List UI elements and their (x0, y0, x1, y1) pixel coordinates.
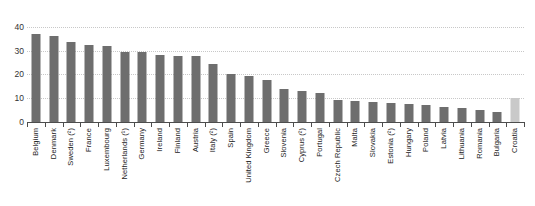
x-label-luxembourg: Luxembourg (103, 128, 111, 171)
x-label-austria: Austria (192, 128, 200, 152)
bar-slot (418, 22, 436, 122)
tickmark (418, 122, 419, 127)
y-tick-label-10: 10 (2, 94, 24, 103)
bar-slovenia[interactable] (280, 89, 289, 122)
tickmark (205, 122, 206, 127)
bar-slot (240, 22, 258, 122)
bar-portugal[interactable] (315, 93, 324, 122)
x-label-finland: Finland (174, 128, 182, 153)
x-label-latvia: Latvia (440, 128, 448, 149)
bar-hungary[interactable] (404, 104, 413, 122)
bar-slot (205, 22, 223, 122)
y-tick-label-20: 20 (2, 70, 24, 79)
tickmark (311, 122, 312, 127)
tickmark (45, 122, 46, 127)
bar-austria[interactable] (191, 56, 200, 122)
tickmark (27, 122, 28, 127)
bar-finland[interactable] (173, 56, 182, 122)
bar-croatia[interactable] (511, 98, 520, 122)
bar-slot (80, 22, 98, 122)
bar-belgium[interactable] (31, 34, 40, 122)
tickmark (329, 122, 330, 127)
bar-germany[interactable] (138, 52, 147, 122)
tickmark (276, 122, 277, 127)
bar-slot (63, 22, 81, 122)
bar-france[interactable] (85, 45, 94, 122)
bar-slot (347, 22, 365, 122)
bar-denmark[interactable] (49, 36, 58, 122)
x-label-spain: Spain (227, 128, 235, 148)
bar-luxembourg[interactable] (102, 46, 111, 122)
x-axis-tickmarks (27, 122, 524, 127)
bar-latvia[interactable] (440, 107, 449, 122)
bar-greece[interactable] (262, 80, 271, 122)
tickmark (453, 122, 454, 127)
x-axis-category-labels: BelgiumDenmarkSweden (²)FranceLuxembourg… (27, 128, 524, 206)
bar-slot (187, 22, 205, 122)
bar-slot (27, 22, 45, 122)
x-label-denmark: Denmark (50, 128, 58, 159)
bar-slot (364, 22, 382, 122)
x-label-sweden: Sweden (²) (67, 128, 75, 166)
x-label-slovenia: Slovenia (280, 128, 288, 158)
bar-slot (329, 22, 347, 122)
bar-italy[interactable] (209, 64, 218, 122)
bar-slot (116, 22, 134, 122)
bar-slot (258, 22, 276, 122)
tickmark (151, 122, 152, 127)
tickmark (524, 122, 525, 127)
x-label-italy: Italy (²) (209, 128, 217, 152)
y-axis-tick-labels: 010203040 (0, 22, 24, 122)
x-label-portugal: Portugal (316, 128, 324, 157)
y-tick-label-30: 30 (2, 47, 24, 56)
tickmark (258, 122, 259, 127)
bar-netherlands[interactable] (120, 52, 129, 122)
bar-slot (453, 22, 471, 122)
x-label-malta: Malta (351, 128, 359, 147)
x-label-lithuania: Lithuania (458, 128, 466, 159)
bar-slot (134, 22, 152, 122)
bar-slot (151, 22, 169, 122)
bar-bulgaria[interactable] (493, 112, 502, 122)
bar-slovakia[interactable] (369, 102, 378, 122)
bar-czechrepublic[interactable] (333, 100, 342, 122)
tickmark (400, 122, 401, 127)
tickmark (116, 122, 117, 127)
bar-ireland[interactable] (156, 55, 165, 122)
tickmark (80, 122, 81, 127)
x-label-hungary: Hungary (405, 128, 413, 157)
bar-poland[interactable] (422, 105, 431, 122)
x-label-estonia: Estonia (²) (387, 128, 395, 164)
tickmark (506, 122, 507, 127)
y-tick-label-40: 40 (2, 23, 24, 32)
bar-lithuania[interactable] (457, 108, 466, 122)
bar-estonia[interactable] (386, 103, 395, 122)
x-label-romania: Romania (476, 128, 484, 159)
bar-slot (293, 22, 311, 122)
bar-romania[interactable] (475, 110, 484, 122)
tickmark (382, 122, 383, 127)
x-label-germany: Germany (138, 128, 146, 160)
bar-slot (506, 22, 524, 122)
x-label-belgium: Belgium (32, 128, 40, 156)
x-label-slovakia: Slovakia (369, 128, 377, 157)
tickmark (293, 122, 294, 127)
tickmark (240, 122, 241, 127)
bar-cyprus[interactable] (298, 91, 307, 122)
bar-slot (311, 22, 329, 122)
bar-slot (489, 22, 507, 122)
bar-malta[interactable] (351, 101, 360, 122)
x-label-greece: Greece (263, 128, 271, 153)
x-label-cyprus: Cyprus (²) (298, 128, 306, 162)
bar-slot (169, 22, 187, 122)
bar-chart: 010203040 BelgiumDenmarkSweden (²)France… (0, 0, 535, 206)
bar-slot (276, 22, 294, 122)
x-label-ireland: Ireland (156, 128, 164, 152)
bar-unitedkingdom[interactable] (244, 76, 253, 122)
bar-slot (98, 22, 116, 122)
tickmark (435, 122, 436, 127)
bar-spain[interactable] (227, 74, 236, 122)
bar-sweden[interactable] (67, 42, 76, 122)
bar-slot (400, 22, 418, 122)
x-label-czechrepublic: Czech Republic (334, 128, 342, 182)
